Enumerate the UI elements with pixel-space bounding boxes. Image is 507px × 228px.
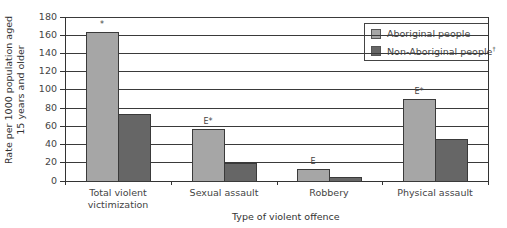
legend-label: Aboriginal people	[387, 28, 470, 39]
x-tick-mark	[488, 181, 489, 185]
y-tick-label: 100	[33, 84, 57, 94]
x-axis-title: Type of violent offence	[232, 211, 340, 222]
y-tick-label: 0	[33, 176, 57, 186]
gridline	[65, 35, 488, 36]
gridline	[65, 71, 488, 72]
x-tick-mark	[277, 181, 278, 185]
y-axis-title: Rate per 1000 population aged 15 years a…	[3, 10, 33, 170]
x-tick-mark	[171, 181, 172, 185]
x-category-label: Physical assault	[382, 187, 488, 199]
bar-annotation: E*	[192, 117, 224, 126]
y-axis	[65, 17, 66, 181]
y-axis-title-line-1: Rate per 1000 population aged	[3, 10, 15, 170]
x-tick-mark	[65, 181, 66, 185]
bar-annotation: *	[86, 20, 118, 29]
bar-aboriginal	[86, 32, 119, 182]
gridline	[65, 53, 488, 54]
x-tick-mark	[382, 181, 383, 185]
bar-non-aboriginal	[329, 177, 362, 182]
bar-aboriginal	[192, 129, 225, 182]
bar-non-aboriginal	[435, 139, 468, 182]
x-category-label: Sexual assault	[171, 187, 277, 199]
legend-swatch-non-aboriginal	[371, 46, 381, 56]
bar-annotation: E	[297, 157, 329, 166]
y-tick-label: 140	[33, 48, 57, 58]
y-tick-label: 160	[33, 30, 57, 40]
y-tick-label: 80	[33, 103, 57, 113]
x-category-label: Robbery	[276, 187, 382, 199]
bar-aboriginal	[297, 169, 330, 182]
y-tick-label: 20	[33, 157, 57, 167]
legend: Aboriginal peopleNon-Aboriginal people†	[364, 23, 489, 61]
plot-right-border	[488, 17, 489, 181]
y-tick-label: 40	[33, 139, 57, 149]
y-tick-label: 60	[33, 121, 57, 131]
y-tick-label: 180	[33, 12, 57, 22]
bar-aboriginal	[403, 99, 436, 182]
y-axis-title-line-2: 15 years and older	[15, 10, 27, 170]
y-tick-label: 120	[33, 66, 57, 76]
legend-swatch-aboriginal	[371, 29, 381, 39]
bar-annotation: E*	[403, 87, 435, 96]
bar-non-aboriginal	[118, 114, 151, 182]
x-category-label: Total violentvictimization	[65, 187, 171, 211]
bar-non-aboriginal	[224, 163, 257, 182]
legend-label: Non-Aboriginal people†	[387, 45, 495, 57]
gridline	[65, 17, 488, 18]
